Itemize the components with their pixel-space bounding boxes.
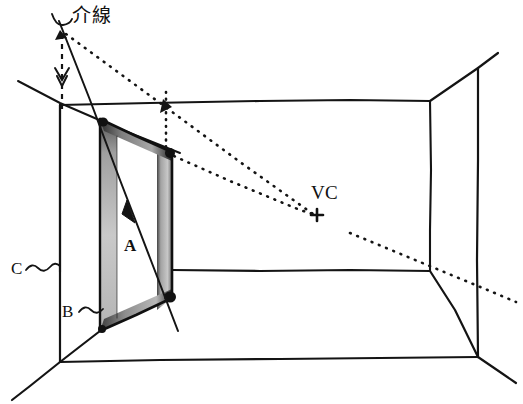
label-mark-b: B bbox=[62, 303, 73, 320]
ceiling-diagonal-right bbox=[430, 53, 498, 101]
floor-front-edge bbox=[60, 357, 478, 362]
vc-cross-icon bbox=[311, 209, 323, 221]
vc-ray-lower bbox=[167, 153, 313, 214]
label-measuring-line: 介線 bbox=[72, 6, 112, 25]
back-wall-bottom-edge bbox=[172, 270, 430, 271]
leader-c-squiggle bbox=[26, 264, 60, 271]
label-mark-c: C bbox=[11, 260, 22, 277]
vc-ray-extension-right bbox=[350, 233, 516, 302]
vc-rays bbox=[66, 34, 516, 302]
right-wall-front-edge bbox=[477, 68, 478, 357]
door-corner-blob-bottomleft bbox=[98, 325, 106, 333]
kaisen-squiggle bbox=[52, 14, 72, 25]
door-right-jamb bbox=[157, 150, 172, 310]
diagram-canvas: 介線 VC A B C bbox=[0, 0, 523, 404]
back-wall-right-edge bbox=[430, 101, 431, 271]
back-wall-top-edge bbox=[60, 100, 430, 105]
floor-extension-bottom-left bbox=[12, 362, 60, 400]
label-mark-a: A bbox=[124, 237, 136, 254]
floor-diagonal-right bbox=[430, 271, 478, 357]
dotted-drop-arrowhead bbox=[160, 99, 172, 113]
room-shell bbox=[12, 53, 516, 400]
label-vanishing-center: VC bbox=[311, 183, 338, 202]
kaisen-leader bbox=[52, 14, 72, 25]
floor-extension-bottom-right bbox=[478, 357, 516, 383]
perspective-diagram-svg bbox=[0, 0, 523, 404]
floor-diagonal-left bbox=[60, 331, 100, 362]
